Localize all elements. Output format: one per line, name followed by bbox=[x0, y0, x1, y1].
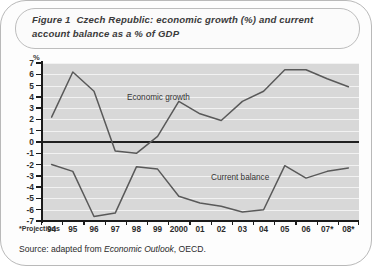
source-publication: Economic Outlook bbox=[104, 244, 174, 254]
x-axis-tick bbox=[83, 221, 84, 225]
y-axis-tick-label: -5 bbox=[27, 193, 34, 203]
figure-title-text: Czech Republic: economic growth (%) and … bbox=[32, 14, 313, 39]
figure-title: Figure 1Czech Republic: economic growth … bbox=[32, 13, 345, 41]
x-axis-tick bbox=[105, 221, 106, 225]
x-axis-tick-label: 02 bbox=[217, 225, 226, 234]
y-axis-tick-label: 6 bbox=[29, 69, 34, 79]
y-axis-tick-label: 5 bbox=[29, 81, 34, 91]
figure-label: Figure 1 bbox=[32, 14, 71, 25]
chart-region: % 76543210-1-2-3-4-5-6-7 949596979899200… bbox=[17, 53, 361, 239]
figure-card: Figure 1Czech Republic: economic growth … bbox=[0, 0, 372, 266]
x-axis-tick-label: 06 bbox=[301, 225, 310, 234]
x-axis-tick bbox=[317, 221, 318, 225]
series-line-economic-growth bbox=[52, 70, 349, 154]
x-axis-tick-label: 2000 bbox=[170, 225, 188, 234]
y-axis-tick-label: 4 bbox=[29, 92, 34, 102]
x-axis-tick bbox=[232, 221, 233, 225]
x-axis-tick-label: 96 bbox=[89, 225, 98, 234]
x-axis-tick-label: 05 bbox=[280, 225, 289, 234]
x-axis-tick bbox=[358, 221, 359, 225]
series-label-current-balance: Current balance bbox=[211, 173, 269, 182]
series-label-economic-growth: Economic growth bbox=[127, 93, 190, 102]
plot-frame: 76543210-1-2-3-4-5-6-7 94959697989920000… bbox=[41, 63, 359, 221]
y-axis-tick-label: 2 bbox=[29, 114, 34, 124]
x-axis-tick bbox=[253, 221, 254, 225]
x-axis-tick-label: 95 bbox=[68, 225, 77, 234]
x-axis-tick bbox=[211, 221, 212, 225]
x-axis-tick bbox=[189, 221, 190, 225]
x-axis-tick bbox=[338, 221, 339, 225]
x-axis-tick-label: 99 bbox=[153, 225, 162, 234]
x-axis-tick bbox=[295, 221, 296, 225]
y-axis-tick-label: -6 bbox=[27, 205, 34, 215]
x-axis-tick-label: 07* bbox=[321, 225, 333, 234]
x-axis-tick-label: 08* bbox=[342, 225, 354, 234]
projections-footnote: *Projections bbox=[19, 225, 60, 232]
y-axis-tick-label: 7 bbox=[29, 58, 34, 68]
source-note: Source: adapted from Economic Outlook, O… bbox=[19, 244, 206, 254]
y-axis-tick-label: -1 bbox=[27, 148, 34, 158]
y-axis-tick-label: 3 bbox=[29, 103, 34, 113]
x-axis-tick bbox=[126, 221, 127, 225]
y-axis-tick-label: -4 bbox=[27, 182, 34, 192]
figure-title-banner: Figure 1Czech Republic: economic growth … bbox=[15, 8, 360, 49]
x-axis-tick-label: 04 bbox=[259, 225, 268, 234]
y-axis-tick-label: -2 bbox=[27, 160, 34, 170]
x-axis-tick bbox=[62, 221, 63, 225]
y-axis-tick-label: 0 bbox=[29, 137, 34, 147]
y-axis-tick-label: 1 bbox=[29, 126, 34, 136]
source-suffix: , OECD. bbox=[174, 244, 206, 254]
series-line-current-balance bbox=[52, 165, 349, 217]
y-axis-tick-label: -3 bbox=[27, 171, 34, 181]
x-axis-tick bbox=[274, 221, 275, 225]
x-axis-tick-label: 97 bbox=[111, 225, 120, 234]
series-lines-group bbox=[41, 63, 359, 221]
x-axis-tick-label: 01 bbox=[195, 225, 204, 234]
x-axis-tick bbox=[147, 221, 148, 225]
source-prefix: Source: adapted from bbox=[19, 244, 104, 254]
x-axis-tick-label: 98 bbox=[132, 225, 141, 234]
x-axis-tick-label: 03 bbox=[238, 225, 247, 234]
